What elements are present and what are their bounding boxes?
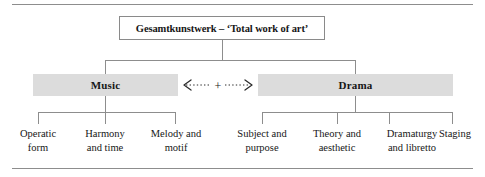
leaf-line-1: Theory and	[302, 127, 372, 141]
leaf-melody-and-motif: Melody and motif	[140, 127, 212, 155]
connector-drama-leaf-1	[262, 112, 263, 124]
connector-root-to-music	[105, 60, 106, 74]
connector-root-bar	[105, 60, 355, 61]
connector-root-stem	[222, 40, 223, 60]
music-drama-link: +	[178, 74, 258, 96]
gesamtkunstwerk-diagram: Gesamtkunstwerk – ‘Total work of art’ Mu…	[0, 0, 485, 177]
branch-node-drama: Drama	[258, 74, 453, 96]
leaf-line-1: Subject and	[226, 127, 298, 141]
leaf-line-1: Staging	[430, 127, 480, 141]
branch-node-drama-label: Drama	[339, 79, 373, 91]
leaf-line-2: purpose	[226, 141, 298, 155]
branch-node-music: Music	[33, 74, 178, 96]
link-plus-symbol: +	[215, 79, 222, 93]
leaf-line-1: Melody and	[140, 127, 212, 141]
connector-drama-stem	[355, 96, 356, 112]
connector-drama-leaf-4	[452, 112, 453, 124]
leaf-staging: Staging	[430, 127, 480, 141]
connector-drama-leaf-2	[337, 112, 338, 124]
leaf-line-2: and time	[71, 141, 139, 155]
leaf-line-1: Operatic	[8, 127, 68, 141]
leaf-line-2: and libretto	[373, 141, 451, 155]
leaf-line-1: Harmony	[71, 127, 139, 141]
connector-music-bar	[38, 112, 175, 113]
bottom-rule	[12, 168, 473, 169]
leaf-line-2: motif	[140, 141, 212, 155]
connector-music-leaf-3	[175, 112, 176, 124]
leaf-subject-and-purpose: Subject and purpose	[226, 127, 298, 155]
root-node-gesamtkunstwerk: Gesamtkunstwerk – ‘Total work of art’	[119, 16, 325, 40]
root-node-label: Gesamtkunstwerk – ‘Total work of art’	[136, 23, 308, 34]
branch-node-music-label: Music	[91, 79, 121, 91]
leaf-operatic-form: Operatic form	[8, 127, 68, 155]
connector-drama-bar	[262, 112, 452, 113]
connector-music-leaf-1	[38, 112, 39, 124]
leaf-line-2: form	[8, 141, 68, 155]
connector-root-to-drama	[355, 60, 356, 74]
leaf-harmony-and-time: Harmony and time	[71, 127, 139, 155]
connector-music-leaf-2	[105, 112, 106, 124]
leaf-theory-and-aesthetic: Theory and aesthetic	[302, 127, 372, 155]
connector-drama-leaf-3	[389, 112, 390, 124]
top-rule	[12, 4, 473, 5]
connector-music-stem	[105, 96, 106, 112]
leaf-line-2: aesthetic	[302, 141, 372, 155]
